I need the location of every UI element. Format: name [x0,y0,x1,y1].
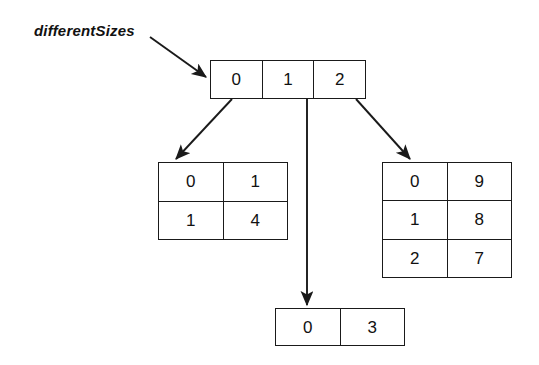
left-value-1: 4 [223,202,288,240]
root-cell-2: 2 [313,61,365,98]
left-index-1: 1 [159,202,223,240]
arrow-root-0-to-left-array [176,99,232,159]
table-row: 0 1 2 [211,61,365,98]
right-value-2: 7 [447,240,512,277]
table-row: 0 3 [276,309,404,345]
arrow-root-2-to-right-array [356,99,410,159]
right-value-0: 9 [447,163,512,200]
root-cell-1: 1 [262,61,314,98]
table-row: 0 1 [159,163,287,201]
root-cell-0: 0 [211,61,262,98]
middle-value-0: 3 [340,309,405,345]
table-row: 1 8 [383,200,511,238]
right-index-0: 0 [383,163,447,200]
right-index-1: 1 [383,201,447,238]
middle-sub-array: 0 3 [275,308,405,346]
right-value-1: 8 [447,201,512,238]
table-row: 1 4 [159,201,287,240]
left-index-0: 0 [159,163,223,201]
table-row: 2 7 [383,239,511,277]
root-index-array: 0 1 2 [210,60,366,99]
label-pointer-arrow [150,37,206,77]
jagged-array-diagram: differentSizes 0 1 2 0 1 1 4 0 9 1 8 2 7 [0,0,539,365]
right-sub-array: 0 9 1 8 2 7 [382,162,512,278]
right-index-2: 2 [383,240,447,277]
left-sub-array: 0 1 1 4 [158,162,288,240]
middle-index-0: 0 [276,309,340,345]
left-value-0: 1 [223,163,288,201]
table-row: 0 9 [383,163,511,200]
variable-label: differentSizes [34,22,135,39]
